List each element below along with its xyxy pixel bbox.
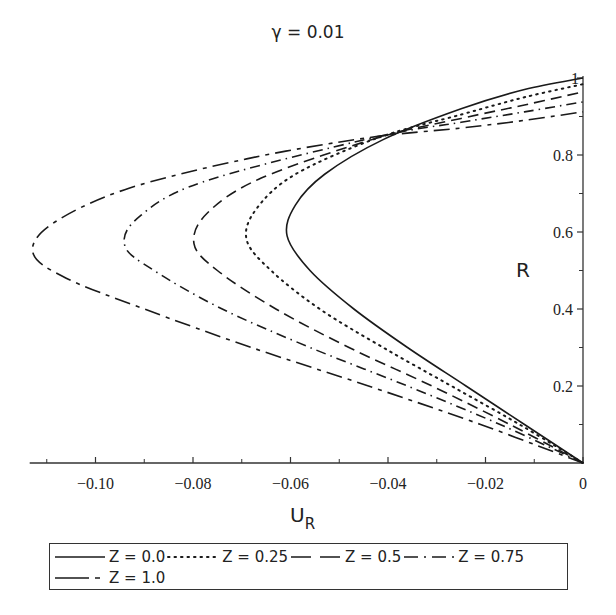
legend-line-swatch (290, 552, 342, 562)
y-tick-label: 0.6 (553, 224, 573, 241)
legend-item: Z = 0.5 (290, 548, 403, 566)
legend-label: Z = 0.0 (109, 548, 165, 566)
legend-line-swatch (54, 573, 106, 583)
curves (33, 78, 583, 463)
x-tick-label: −0.08 (174, 475, 211, 492)
legend-line-swatch (167, 552, 219, 562)
axes: −0.10−0.08−0.06−0.04−0.0200.20.40.60.81 (30, 70, 587, 492)
legend-label: Z = 0.5 (345, 548, 401, 566)
legend-row-1: Z = 0.0Z = 0.25Z = 0.5Z = 0.75 (54, 546, 526, 568)
curve-long-dash-short-dash (33, 112, 583, 463)
x-axis-label: UR (290, 503, 315, 533)
y-axis-label: R (516, 258, 530, 282)
legend-item: Z = 0.75 (403, 548, 526, 566)
x-tick-label: −0.10 (77, 475, 114, 492)
plot-area: −0.10−0.08−0.06−0.04−0.0200.20.40.60.81 … (0, 0, 616, 615)
curve-solid (286, 78, 583, 463)
legend: Z = 0.0Z = 0.25Z = 0.5Z = 0.75 Z = 1.0 (49, 543, 568, 590)
y-tick-label: 0.8 (553, 147, 573, 164)
legend-row-2: Z = 1.0 (54, 567, 167, 589)
x-tick-label: −0.04 (369, 475, 406, 492)
y-tick-label: 0.4 (553, 301, 573, 318)
legend-line-swatch (403, 552, 455, 562)
x-tick-label: 0 (579, 475, 587, 492)
y-tick-label: 0.2 (553, 378, 573, 395)
legend-item: Z = 1.0 (54, 569, 167, 587)
legend-item: Z = 0.25 (167, 548, 290, 566)
legend-label: Z = 0.75 (458, 548, 524, 566)
legend-label: Z = 1.0 (109, 569, 165, 587)
x-tick-label: −0.06 (272, 475, 309, 492)
legend-label: Z = 0.25 (222, 548, 288, 566)
curve-dotted (246, 84, 583, 463)
legend-line-swatch (54, 552, 106, 562)
legend-item: Z = 0.0 (54, 548, 167, 566)
x-tick-label: −0.02 (467, 475, 504, 492)
